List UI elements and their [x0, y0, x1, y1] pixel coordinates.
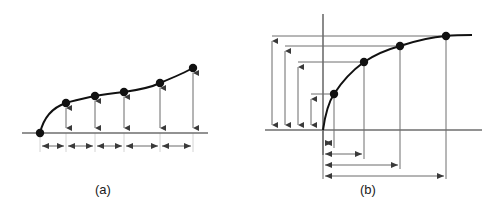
figure-container: (a) (b) [0, 0, 499, 220]
panel-b-vertical-dimensions [272, 41, 311, 125]
panel-a-tick-guides [40, 133, 193, 152]
panel-a-vertical-arrows [66, 73, 193, 128]
panel-b-horizontal-dimensions [325, 143, 444, 176]
panel-a-point [189, 64, 197, 72]
panel-a-point [120, 88, 128, 96]
panel-a-point [62, 99, 70, 107]
panel-a-point [36, 129, 44, 137]
panel-a-point [91, 92, 99, 100]
panel-b-point [442, 32, 450, 40]
panel-a-caption: (a) [95, 182, 111, 197]
panel-b-point [360, 58, 368, 66]
panel-a [22, 64, 208, 152]
panel-b-drop-lines [323, 36, 446, 179]
panel-b-point [396, 42, 404, 50]
panel-b [265, 14, 482, 179]
panel-b-caption: (b) [360, 182, 376, 197]
panel-a-point [156, 79, 164, 87]
panel-b-point [330, 90, 338, 98]
panel-b-points [330, 32, 450, 98]
panel-a-points [36, 64, 197, 137]
figure-svg [0, 0, 499, 220]
